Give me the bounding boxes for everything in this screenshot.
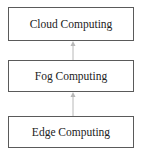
node-cloud-computing: Cloud Computing xyxy=(8,7,134,41)
node-fog-computing: Fog Computing xyxy=(8,60,134,92)
node-label: Edge Computing xyxy=(32,126,110,138)
node-edge-computing: Edge Computing xyxy=(8,116,134,148)
node-label: Fog Computing xyxy=(35,70,108,82)
arrow-edge-to-fog xyxy=(71,92,76,116)
node-label: Cloud Computing xyxy=(30,18,113,30)
arrow-fog-to-cloud xyxy=(71,41,76,60)
